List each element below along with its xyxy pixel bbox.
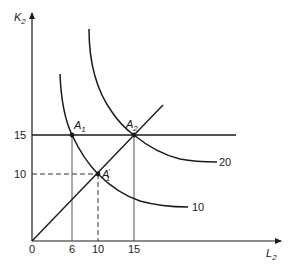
point-a1prime-label: A′1 (101, 167, 110, 183)
point-a2-label: A2 (125, 118, 138, 133)
point-a2-marker (132, 133, 137, 138)
x-tick-label-0: 0 (29, 243, 35, 255)
point-a1prime-marker (96, 172, 101, 177)
x-tick-label-15: 15 (128, 243, 140, 255)
isoquant-diagram: K2 L2 15 10 0 6 10 15 A1 A2 A′1 20 10 (0, 0, 292, 266)
point-a1-label: A1 (73, 119, 86, 134)
x-tick-label-10: 10 (92, 243, 104, 255)
point-a1-marker (70, 133, 75, 138)
isoquant-label-10: 10 (192, 201, 204, 213)
y-tick-label-10: 10 (14, 168, 26, 180)
y-tick-label-15: 15 (14, 129, 26, 141)
isoquant-curve-20 (89, 29, 217, 162)
isoquant-label-20: 20 (219, 156, 231, 168)
x-axis-label: L2 (266, 247, 277, 262)
x-tick-label-6: 6 (69, 243, 75, 255)
isoquant-curve-10 (60, 74, 188, 207)
y-axis-label: K2 (14, 11, 26, 26)
